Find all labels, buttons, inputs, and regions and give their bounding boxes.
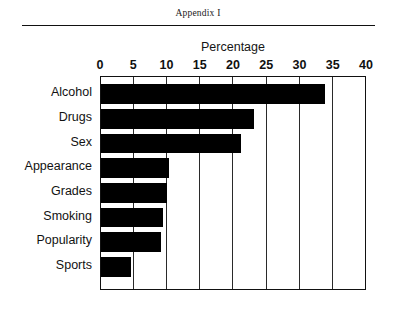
y-category-label: Grades xyxy=(0,184,92,198)
bar xyxy=(101,183,167,203)
bar xyxy=(101,232,161,252)
header-divider xyxy=(22,25,375,26)
bar-row xyxy=(101,134,367,154)
y-category-label: Drugs xyxy=(0,110,92,124)
y-category-label: Sex xyxy=(0,135,92,149)
x-tick-label: 20 xyxy=(218,58,248,72)
x-tick-label: 10 xyxy=(152,58,182,72)
bar-row xyxy=(101,109,367,129)
bar-row xyxy=(101,257,367,277)
x-axis-tick-labels: 0510152025303540 xyxy=(0,58,396,72)
bar xyxy=(101,158,169,178)
y-category-label: Smoking xyxy=(0,209,92,223)
appendix-chart-page: Appendix I Percentage 0510152025303540 A… xyxy=(0,0,396,311)
x-tick-label: 15 xyxy=(185,58,215,72)
y-category-label: Sports xyxy=(0,258,92,272)
x-tick-label: 30 xyxy=(285,58,315,72)
bar-row xyxy=(101,158,367,178)
appendix-heading: Appendix I xyxy=(0,8,396,18)
x-tick-label: 35 xyxy=(318,58,348,72)
x-tick-label: 40 xyxy=(351,58,381,72)
bar xyxy=(101,208,163,228)
x-tick-label: 0 xyxy=(85,58,115,72)
bar xyxy=(101,257,131,277)
bar-row xyxy=(101,232,367,252)
x-tick-label: 25 xyxy=(251,58,281,72)
x-tick-label: 5 xyxy=(118,58,148,72)
y-category-label: Popularity xyxy=(0,233,92,247)
y-category-label: Appearance xyxy=(0,159,92,173)
y-category-label: Alcohol xyxy=(0,85,92,99)
bar xyxy=(101,134,241,154)
plot-area xyxy=(100,76,366,290)
bar xyxy=(101,109,254,129)
bar-row xyxy=(101,84,367,104)
chart-title: Percentage xyxy=(100,40,366,54)
bar-row xyxy=(101,208,367,228)
bar-series xyxy=(101,77,365,289)
bar xyxy=(101,84,325,104)
bar-row xyxy=(101,183,367,203)
y-axis-category-labels: AlcoholDrugsSexAppearanceGradesSmokingPo… xyxy=(0,76,96,290)
